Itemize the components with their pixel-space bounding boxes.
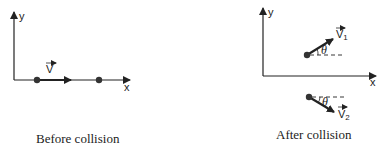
angle1-label: θ	[321, 43, 327, 57]
y-axis-label: y	[268, 6, 274, 18]
x-axis-label: x	[124, 81, 130, 93]
y-axis-label: y	[19, 10, 25, 22]
angle2-label: θ	[322, 95, 328, 109]
x-axis-label: x	[370, 76, 376, 88]
velocity1-arrow	[307, 39, 333, 55]
after-collision-panel: y x θ V1 θ V2	[263, 6, 376, 122]
particle-2	[306, 94, 312, 100]
before-collision-panel: y x V	[14, 10, 130, 93]
angle-arc-2	[318, 97, 320, 103]
angle-arc-1	[317, 49, 318, 55]
particle-stationary	[96, 77, 102, 83]
velocity2-label: V2	[338, 108, 350, 122]
after-caption: After collision	[276, 127, 351, 143]
velocity-label: V	[46, 63, 54, 75]
before-caption: Before collision	[36, 131, 119, 147]
particle-1	[304, 52, 310, 58]
velocity1-label: V1	[336, 28, 348, 42]
particle-moving	[34, 77, 40, 83]
